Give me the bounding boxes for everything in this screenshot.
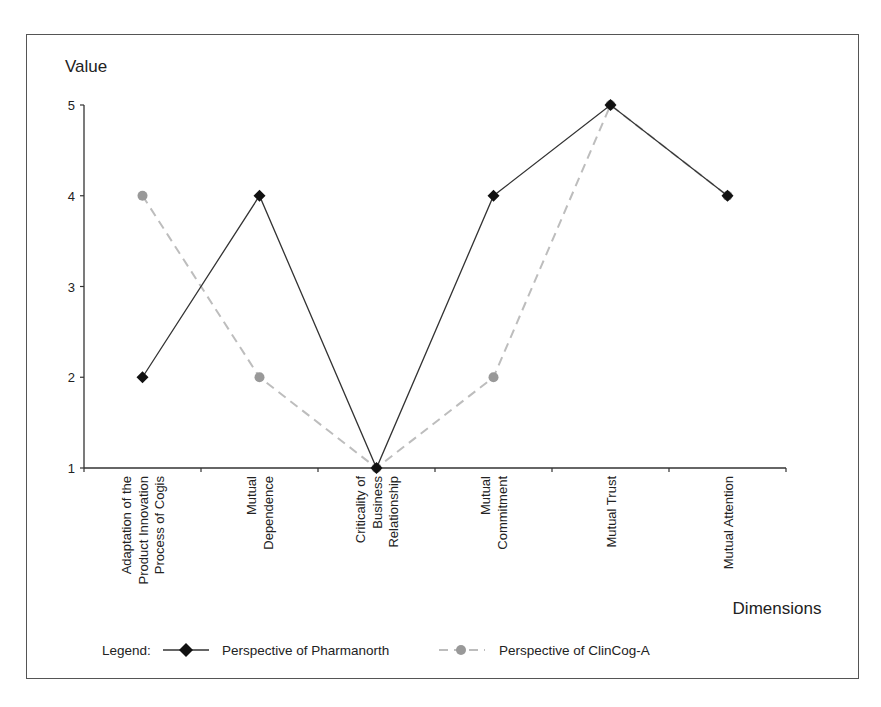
y-tick-label: 2 [68,370,75,385]
svg-text:Mutual: Mutual [478,476,493,515]
svg-text:Commitment: Commitment [495,476,510,550]
diamond-marker-icon [179,643,193,657]
x-tick-label: Mutual Trust [604,476,619,548]
circle-marker-icon [138,191,148,201]
series-clincog [138,100,733,473]
svg-text:Mutual: Mutual [244,476,259,515]
diamond-marker-icon [254,190,266,202]
legend-title: Legend: [102,643,151,658]
axes: 12345 [68,98,786,476]
svg-text:Product Innovation: Product Innovation [136,476,151,584]
svg-text:Adaptation of the: Adaptation of the [119,476,134,574]
svg-text:Criticality of: Criticality of [353,476,368,544]
circle-marker-icon [489,372,499,382]
diamond-marker-icon [137,371,149,383]
x-tick-labels: Adaptation of theProduct InnovationProce… [119,476,736,585]
svg-text:Business: Business [370,476,385,529]
series-pharmanorth [137,99,734,474]
legend: Legend: Perspective of Pharmanorth Persp… [102,643,650,658]
x-tick-label: Mutual Attention [721,476,736,569]
svg-text:Mutual Attention: Mutual Attention [721,476,736,569]
legend-item-clincog: Perspective of ClinCog-A [439,643,650,658]
x-tick-label: MutualCommitment [478,476,510,550]
series-lines [137,99,734,474]
x-tick-label: Adaptation of theProduct InnovationProce… [119,476,167,585]
x-axis-label: Dimensions [733,599,822,618]
circle-marker-icon [255,372,265,382]
svg-text:Mutual Trust: Mutual Trust [604,476,619,548]
figure-caption [90,690,880,707]
y-tick-label: 3 [68,280,75,295]
y-tick-label: 5 [68,98,75,113]
legend-item-pharmanorth: Perspective of Pharmanorth [163,643,389,658]
diamond-marker-icon [371,462,383,474]
legend-label: Perspective of Pharmanorth [222,643,389,658]
line-chart: Value 12345 Adaptation of theProduct Inn… [0,0,881,707]
legend-label: Perspective of ClinCog-A [499,643,650,658]
diamond-marker-icon [488,190,500,202]
svg-text:Relationship: Relationship [386,476,401,548]
y-axis-label: Value [65,57,107,76]
svg-text:Process of Cogis: Process of Cogis [152,476,167,575]
circle-marker-icon [456,645,466,655]
x-tick-label: MutualDependence [244,476,276,550]
y-tick-label: 4 [68,189,75,204]
svg-text:Dependence: Dependence [261,476,276,550]
y-tick-label: 1 [68,461,75,476]
x-tick-label: Criticality ofBusinessRelationship [353,476,401,548]
